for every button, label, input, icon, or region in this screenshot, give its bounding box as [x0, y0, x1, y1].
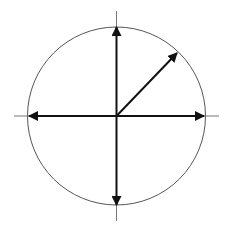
vector-diagonal [117, 53, 178, 116]
unit-circle-diagram [0, 0, 228, 229]
